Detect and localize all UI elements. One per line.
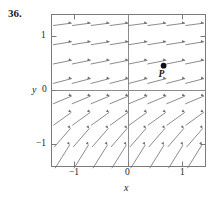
y-tick-label-0: 0 xyxy=(42,84,47,94)
slope-arrowhead xyxy=(143,125,146,128)
slope-segment xyxy=(93,145,107,168)
y-axis-label: y xyxy=(32,84,36,95)
slope-segment xyxy=(131,145,145,168)
slope-field-figure: 36. P y x −1 0 1 1 0 −1 xyxy=(0,0,214,200)
slope-arrowhead xyxy=(181,125,184,128)
slope-arrowhead xyxy=(87,109,90,112)
slope-arrowhead xyxy=(163,109,166,112)
slope-segment xyxy=(91,112,109,125)
slope-segment xyxy=(129,79,148,84)
slope-segment xyxy=(150,145,164,168)
slope-arrowhead xyxy=(67,142,70,145)
slope-segment xyxy=(147,79,166,84)
slope-segment xyxy=(147,96,166,104)
slope-segment xyxy=(187,145,201,168)
slope-segment xyxy=(72,96,91,104)
x-tick-label-1: 1 xyxy=(180,167,185,177)
slope-arrowhead xyxy=(144,94,147,97)
slope-segment xyxy=(149,128,165,147)
slope-segment xyxy=(168,128,184,147)
slope-arrowhead xyxy=(182,94,185,97)
slope-arrowhead xyxy=(162,125,165,128)
slope-segment xyxy=(166,79,185,84)
slope-segment xyxy=(73,128,89,147)
slope-segment xyxy=(72,79,91,84)
x-tick-label-neg1: −1 xyxy=(69,167,79,177)
slope-arrowhead xyxy=(105,125,108,128)
slope-segment xyxy=(91,96,110,104)
slope-segment xyxy=(169,145,183,168)
slope-segment xyxy=(53,79,72,84)
slope-segment xyxy=(129,112,147,125)
slope-segment xyxy=(111,128,127,147)
slope-arrowhead xyxy=(200,125,203,128)
slope-segment xyxy=(55,145,69,168)
slope-segment xyxy=(53,96,72,104)
slope-arrowhead xyxy=(142,142,145,145)
exercise-number: 36. xyxy=(8,7,22,19)
slope-arrowhead xyxy=(144,109,147,112)
slope-arrowhead xyxy=(125,94,128,97)
slope-arrowhead xyxy=(106,94,109,97)
slope-arrowhead xyxy=(67,125,70,128)
slope-arrowhead xyxy=(180,142,183,145)
slope-segment xyxy=(72,112,90,125)
slope-arrowhead xyxy=(200,109,203,112)
slope-segment xyxy=(110,96,129,104)
slope-segment xyxy=(54,128,70,147)
slope-segment xyxy=(92,128,108,147)
slope-arrowhead xyxy=(87,94,90,97)
slope-arrowhead xyxy=(105,142,108,145)
slope-arrowhead xyxy=(124,125,127,128)
slope-arrowhead xyxy=(86,142,89,145)
slope-arrowhead xyxy=(201,94,204,97)
slope-segment xyxy=(110,79,129,84)
y-tick-label-1: 1 xyxy=(41,30,46,40)
slope-arrowhead xyxy=(181,109,184,112)
slope-segment xyxy=(187,128,203,147)
slope-segment xyxy=(129,96,148,104)
slope-segment xyxy=(186,112,204,125)
slope-segment xyxy=(112,145,126,168)
slope-arrowhead xyxy=(123,142,126,145)
slope-segment xyxy=(148,112,166,125)
slope-segment xyxy=(166,96,185,104)
slope-segment xyxy=(74,145,88,168)
point-P-label: P xyxy=(159,69,165,79)
slope-arrowhead xyxy=(68,94,71,97)
slope-segment xyxy=(91,79,110,84)
slope-arrowhead xyxy=(86,125,89,128)
slope-segment xyxy=(130,128,146,147)
slope-segment xyxy=(185,79,204,84)
slope-segment xyxy=(167,112,185,125)
slope-arrowhead xyxy=(199,142,202,145)
slope-arrowhead xyxy=(125,109,128,112)
x-tick-label-0: 0 xyxy=(125,167,130,177)
x-axis-label: x xyxy=(124,182,128,193)
slope-arrowhead xyxy=(161,142,164,145)
y-tick-label-neg1: −1 xyxy=(36,138,46,148)
slope-arrowhead xyxy=(163,94,166,97)
slope-segment xyxy=(110,112,128,125)
slope-segment xyxy=(53,112,71,125)
slope-arrowhead xyxy=(106,109,109,112)
slope-segment xyxy=(185,96,204,104)
slope-arrowhead xyxy=(68,109,71,112)
